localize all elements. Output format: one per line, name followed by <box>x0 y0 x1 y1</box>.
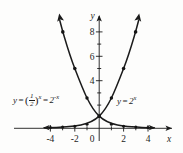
data-point <box>61 126 64 129</box>
data-point <box>85 96 88 99</box>
data-point <box>73 125 76 128</box>
curve-half-pow-x-arrowhead <box>57 14 64 22</box>
fraction-numerator: 1 <box>29 93 35 100</box>
x-tick-labels: -4 -2 0 2 4 <box>46 134 150 144</box>
curve-half-pow-x <box>57 14 154 129</box>
y-tick-labels: 4 6 8 <box>90 27 95 86</box>
x-tick-label-4: 4 <box>146 134 151 144</box>
data-point <box>134 30 138 34</box>
curve-2-pow-x-arrowhead <box>134 14 141 22</box>
y-tick-label-4: 4 <box>90 76 95 86</box>
data-point <box>73 67 77 71</box>
y-axis-name: y <box>89 11 95 21</box>
curve-half-pow-x-path <box>60 21 154 128</box>
data-point <box>61 30 65 34</box>
right-label-exponent: x <box>134 94 137 101</box>
left-label-exponent-2: -x <box>54 93 59 100</box>
right-label-equals: = <box>121 96 129 106</box>
left-label-equals-1: = <box>17 95 25 105</box>
x-tick-label-neg2: -2 <box>71 134 79 144</box>
x-tick-label-neg4: -4 <box>46 134 54 144</box>
x-tick-label-2: 2 <box>121 134 126 144</box>
x-tick-label-0: 0 <box>90 134 95 144</box>
x-axis-name: x <box>166 134 172 144</box>
data-point <box>110 123 113 126</box>
data-point <box>98 114 101 117</box>
right-curve-equation-label: y=2x <box>117 95 136 106</box>
data-point <box>147 126 150 129</box>
left-curve-equation-label: y=(12)x=2-x <box>13 93 59 108</box>
exponential-functions-figure: -4 -2 0 2 4 4 6 8 x y <box>0 0 183 153</box>
graph-canvas: -4 -2 0 2 4 4 6 8 x y <box>0 0 183 153</box>
data-point <box>122 125 125 128</box>
one-half-fraction: 12 <box>29 93 35 108</box>
data-point <box>86 123 89 126</box>
data-point <box>110 96 113 99</box>
data-point <box>134 126 137 129</box>
y-tick-label-8: 8 <box>90 27 95 37</box>
y-tick-label-6: 6 <box>90 52 95 62</box>
fraction-denominator: 2 <box>29 100 35 108</box>
data-point <box>122 67 126 71</box>
data-point <box>49 126 52 129</box>
